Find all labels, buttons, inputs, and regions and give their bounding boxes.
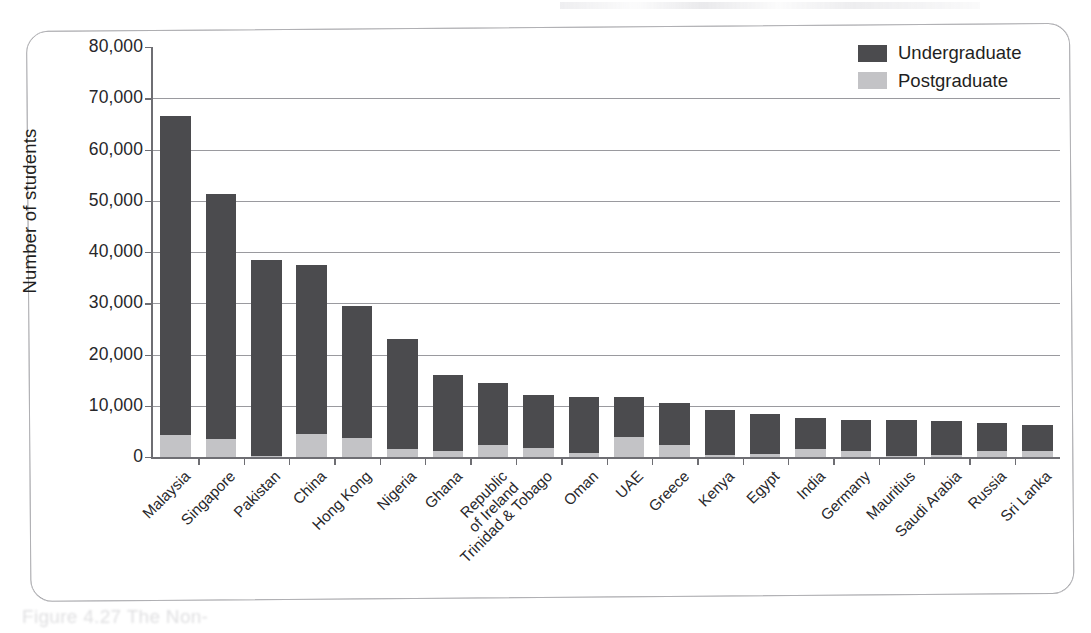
legend-item: Postgraduate (858, 72, 1021, 91)
legend-swatch-postgraduate (858, 72, 887, 89)
y-axis-tick-mark (145, 406, 152, 407)
bar-segment-postgraduate (977, 451, 1008, 457)
x-axis-tick-mark (969, 457, 970, 465)
y-axis-tick-mark (145, 150, 152, 151)
x-axis-tick-mark (380, 457, 381, 465)
legend-label: Postgraduate (898, 72, 1008, 91)
bar-segment-postgraduate (433, 451, 464, 457)
bar (614, 397, 645, 457)
legend-swatch-undergraduate (858, 45, 887, 62)
bar-segment-postgraduate (1022, 451, 1053, 457)
bar-segment-postgraduate (251, 456, 282, 457)
x-axis-tick-mark (198, 457, 199, 465)
y-axis-tick-label: 10,000 (65, 397, 143, 415)
bar-segment-postgraduate (841, 451, 872, 457)
x-axis-tick-mark (879, 457, 880, 465)
y-axis-tick-mark (145, 355, 152, 356)
x-axis-tick-mark (425, 457, 426, 465)
y-axis-tick-mark (145, 47, 152, 48)
bar-segment-postgraduate (931, 455, 962, 457)
bar-segment-undergraduate (705, 410, 736, 456)
legend-label: Undergraduate (898, 44, 1021, 63)
bar-segment-undergraduate (841, 420, 872, 451)
bar (523, 395, 554, 457)
bar (251, 260, 282, 457)
x-axis-tick-mark (607, 457, 608, 465)
bar-segment-undergraduate (977, 423, 1008, 451)
legend: UndergraduatePostgraduate (858, 44, 1021, 99)
bar (433, 375, 464, 458)
bar-segment-undergraduate (523, 395, 554, 448)
bar-segment-postgraduate (886, 456, 917, 457)
bar-segment-undergraduate (160, 116, 191, 435)
y-axis-tick-label: 50,000 (65, 192, 143, 210)
bar-segment-undergraduate (614, 397, 645, 436)
x-axis-tick-mark (788, 457, 789, 465)
bar (931, 421, 962, 457)
bar (977, 423, 1008, 457)
x-axis-tick-mark (924, 457, 925, 465)
bar-segment-postgraduate (523, 448, 554, 457)
bar-segment-postgraduate (659, 445, 690, 457)
figure-caption: Figure 4.27 The Non- (22, 606, 582, 632)
bar (478, 383, 509, 457)
x-axis-tick-mark (289, 457, 290, 465)
bar-segment-postgraduate (160, 435, 191, 457)
bar-segment-undergraduate (750, 414, 781, 454)
y-axis-tick-label: 30,000 (65, 294, 143, 312)
bar (795, 418, 826, 457)
bar-segment-undergraduate (886, 420, 917, 456)
x-axis-tick-mark (652, 457, 653, 465)
bar (342, 306, 373, 457)
y-axis-tick-mark (145, 303, 152, 304)
x-axis-tick-mark (470, 457, 471, 465)
bar-segment-postgraduate (795, 449, 826, 457)
bar-segment-postgraduate (750, 454, 781, 457)
x-axis-tick-mark (833, 457, 834, 465)
bar-segment-postgraduate (206, 439, 237, 457)
bar-segment-postgraduate (569, 453, 600, 457)
bar-segment-undergraduate (478, 383, 509, 445)
bar-segment-postgraduate (296, 434, 327, 457)
y-axis-tick-mark (145, 252, 152, 253)
bar-segment-undergraduate (931, 421, 962, 455)
y-axis-tick-label: 0 (65, 448, 143, 466)
bar-segment-undergraduate (296, 265, 327, 434)
bar (886, 420, 917, 457)
bar-segment-undergraduate (659, 403, 690, 446)
bar-segment-postgraduate (614, 437, 645, 458)
bar-segment-undergraduate (251, 260, 282, 456)
y-axis-tick-label: 60,000 (65, 141, 143, 159)
x-axis-tick-mark (334, 457, 335, 465)
bar-segment-postgraduate (342, 438, 373, 457)
bar (659, 403, 690, 457)
bar-segment-undergraduate (206, 194, 237, 438)
bar (160, 116, 191, 457)
bar-segment-undergraduate (433, 375, 464, 451)
y-axis-tick-mark (145, 98, 152, 99)
x-axis-tick-mark (561, 457, 562, 465)
bar (296, 265, 327, 457)
y-axis-label: Number of students (19, 31, 41, 391)
bar-chart: Number of students 80,00070,00060,00050,… (0, 0, 1091, 633)
bar-segment-postgraduate (705, 455, 736, 457)
bar-segment-undergraduate (1022, 425, 1053, 451)
y-axis-tick-label: 20,000 (65, 346, 143, 364)
y-axis-tick-label: 80,000 (65, 38, 143, 56)
y-axis-tick-label: 70,000 (65, 89, 143, 107)
x-axis-tick-mark (743, 457, 744, 465)
bar (206, 194, 237, 457)
y-axis-tick-label: 40,000 (65, 243, 143, 261)
bar (705, 410, 736, 457)
bar-segment-postgraduate (478, 445, 509, 457)
bar (841, 420, 872, 457)
x-axis-tick-mark (244, 457, 245, 465)
y-axis-tick-mark (145, 201, 152, 202)
legend-item: Undergraduate (858, 44, 1021, 63)
bar (387, 339, 418, 457)
x-axis-tick-mark (697, 457, 698, 465)
bar (569, 397, 600, 457)
x-axis-tick-mark (1015, 457, 1016, 465)
bar (750, 414, 781, 457)
bar-segment-postgraduate (387, 449, 418, 457)
